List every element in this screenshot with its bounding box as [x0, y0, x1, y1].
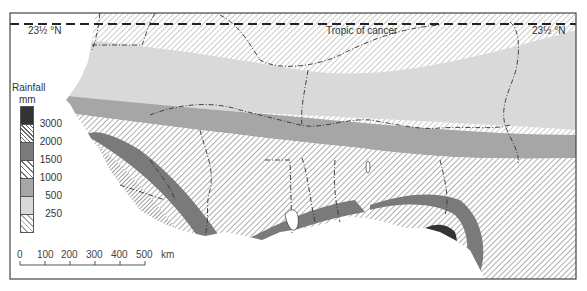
- scale-tick-0: 0: [17, 249, 23, 260]
- legend-unit: mm: [19, 94, 36, 105]
- legend-value-3000: 3000: [34, 118, 62, 129]
- tropic-label-left: 23½ °N: [28, 25, 61, 36]
- scale-tick-200: 200: [61, 249, 78, 260]
- tropic-label-right: 23½ °N: [532, 25, 565, 36]
- legend-swatch-250-500: [20, 196, 34, 215]
- rainfall-map: [0, 0, 587, 291]
- legend-value-1500: 1500: [34, 154, 62, 165]
- legend-swatch-2000-3000: [20, 124, 34, 143]
- legend-value-1000: 1000: [34, 172, 62, 183]
- scale-unit: km: [161, 249, 174, 260]
- scale-tick-400: 400: [111, 249, 128, 260]
- legend-title: Rainfall: [12, 82, 45, 93]
- scale-tick-100: 100: [37, 249, 54, 260]
- legend-value-250: 250: [34, 208, 62, 219]
- legend-swatch-500-1000: [20, 178, 34, 197]
- scale-tick-300: 300: [86, 249, 103, 260]
- legend-swatch-under-250: [20, 214, 34, 233]
- scale-tick-500: 500: [136, 249, 153, 260]
- tropic-name-label: Tropic of cancer: [326, 25, 397, 36]
- legend-swatch-over-3000: [20, 106, 34, 125]
- legend-swatch-1500-2000: [20, 142, 34, 161]
- legend-value-500: 500: [34, 190, 62, 201]
- legend-swatch-1000-1500: [20, 160, 34, 179]
- legend-value-2000: 2000: [34, 136, 62, 147]
